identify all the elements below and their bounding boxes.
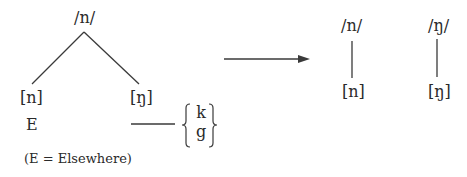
environment-g: g: [189, 122, 213, 141]
left-branch-line: [32, 32, 84, 84]
phoneme-eng-right: /ŋ/: [428, 17, 449, 35]
right-branch-line: [84, 32, 139, 84]
footnote: (E = Elsewhere): [24, 151, 132, 166]
elsewhere-marker: E: [26, 116, 38, 134]
allophone-n-right: [n]: [342, 83, 365, 101]
environment-k: k: [189, 103, 213, 122]
environment-set: k g: [189, 103, 213, 141]
allophone-n: [n]: [20, 89, 43, 107]
allophone-eng-right: [ŋ]: [428, 83, 451, 101]
right-arrow-icon: [298, 55, 310, 63]
underlying-phoneme-n: /n/: [74, 9, 95, 27]
phoneme-n-right: /n/: [341, 17, 362, 35]
allophone-eng: [ŋ]: [130, 89, 153, 107]
